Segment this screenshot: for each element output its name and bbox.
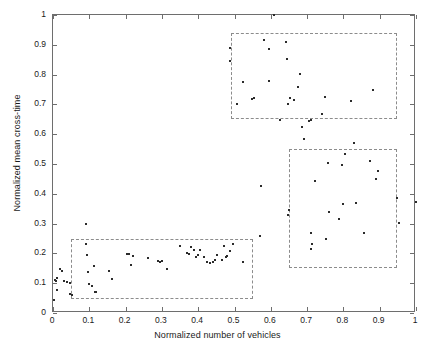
data-point xyxy=(325,238,327,240)
data-point xyxy=(287,103,289,105)
data-point xyxy=(130,264,132,266)
x-tick-top xyxy=(198,15,199,19)
data-point xyxy=(363,232,365,234)
x-tick-label: 0.3 xyxy=(155,315,167,325)
x-tick xyxy=(380,307,381,311)
data-point xyxy=(350,100,352,102)
y-tick-right xyxy=(410,15,414,16)
data-point xyxy=(212,261,214,263)
data-point xyxy=(398,222,400,224)
data-point xyxy=(56,277,58,279)
data-point xyxy=(342,203,344,205)
data-point xyxy=(375,178,377,180)
data-point xyxy=(86,254,88,256)
y-axis-title: Normalized mean cross-time xyxy=(12,73,22,233)
data-point xyxy=(128,253,130,255)
data-point xyxy=(344,153,346,155)
data-point xyxy=(396,197,398,199)
y-tick-right xyxy=(410,45,414,46)
data-point xyxy=(341,164,343,166)
data-point xyxy=(221,259,223,261)
data-point xyxy=(157,260,159,262)
scatter-plot-figure: Normalized number of vehicles Normalized… xyxy=(0,0,435,355)
data-point xyxy=(85,243,87,245)
y-tick-right xyxy=(410,194,414,195)
data-point xyxy=(263,39,265,41)
y-tick-label: 0.1 xyxy=(0,277,46,287)
data-point xyxy=(179,245,181,247)
data-point xyxy=(338,218,340,220)
y-tick-right xyxy=(410,164,414,165)
data-point xyxy=(223,245,225,247)
data-point xyxy=(214,259,216,261)
data-point xyxy=(355,202,357,204)
data-point xyxy=(293,99,295,101)
x-tick xyxy=(416,307,417,311)
y-tick xyxy=(53,313,57,314)
x-tick xyxy=(89,307,90,311)
data-point xyxy=(314,180,316,182)
data-point xyxy=(93,265,95,267)
y-tick xyxy=(53,134,57,135)
x-tick-top xyxy=(380,15,381,19)
data-point xyxy=(132,255,134,257)
data-point xyxy=(85,223,87,225)
data-point xyxy=(285,41,287,43)
x-tick-label: 0 xyxy=(50,315,55,325)
data-point xyxy=(166,268,168,270)
y-tick-right xyxy=(410,253,414,254)
x-tick-top xyxy=(126,15,127,19)
x-tick-label: 0.7 xyxy=(300,315,312,325)
data-point xyxy=(327,162,329,164)
data-point xyxy=(242,261,244,263)
x-tick-label: 0.9 xyxy=(373,315,385,325)
data-point xyxy=(199,249,201,251)
y-tick-label: 0.2 xyxy=(0,247,46,257)
y-tick-right xyxy=(410,104,414,105)
cluster-box-cluster-low xyxy=(71,239,253,299)
y-tick-label: 0.5 xyxy=(0,158,46,168)
data-point xyxy=(87,271,89,273)
y-tick-label: 1 xyxy=(0,9,46,19)
y-tick xyxy=(53,283,57,284)
data-point xyxy=(61,270,63,272)
x-tick-label: 0.1 xyxy=(82,315,94,325)
x-tick-top xyxy=(162,15,163,19)
data-point xyxy=(273,14,275,16)
data-point xyxy=(95,291,97,293)
data-point xyxy=(229,47,231,49)
y-tick-right xyxy=(410,283,414,284)
x-tick-label: 0.5 xyxy=(228,315,240,325)
data-point xyxy=(55,280,57,282)
data-point xyxy=(88,283,90,285)
data-point xyxy=(297,86,299,88)
data-point xyxy=(288,209,290,211)
x-tick-label: 0.6 xyxy=(264,315,276,325)
data-point xyxy=(377,170,379,172)
data-point xyxy=(310,119,312,121)
y-tick xyxy=(53,75,57,76)
y-tick-label: 0.9 xyxy=(0,39,46,49)
y-tick-label: 0.4 xyxy=(0,188,46,198)
x-tick-label: 0.8 xyxy=(336,315,348,325)
x-tick xyxy=(307,307,308,311)
data-point xyxy=(71,294,73,296)
data-point xyxy=(260,185,262,187)
x-tick-label: 0.2 xyxy=(119,315,131,325)
y-tick-label: 0.3 xyxy=(0,218,46,228)
y-tick xyxy=(53,164,57,165)
x-tick-top xyxy=(89,15,90,19)
x-tick xyxy=(198,307,199,311)
data-point xyxy=(229,250,231,252)
data-point xyxy=(226,255,228,257)
data-point xyxy=(229,60,231,62)
data-point xyxy=(299,73,301,75)
y-tick-label: 0 xyxy=(0,307,46,317)
cluster-box-cluster-high-volume xyxy=(289,149,397,268)
x-tick-top xyxy=(343,15,344,19)
y-tick xyxy=(53,253,57,254)
data-point xyxy=(206,261,208,263)
y-tick xyxy=(53,104,57,105)
y-tick-label: 0.6 xyxy=(0,128,46,138)
x-tick-top xyxy=(271,15,272,19)
